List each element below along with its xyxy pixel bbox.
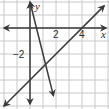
coordinate-graph: y x 2 4 −2 — [0, 0, 109, 109]
x-axis-label: x — [100, 28, 106, 40]
tick-label-y-neg2: −2 — [13, 49, 25, 60]
y-axis-label: y — [34, 0, 40, 12]
tick-label-x-4: 4 — [79, 29, 85, 40]
steep-falling-line — [30, 2, 53, 96]
tick-label-x-2: 2 — [53, 29, 59, 40]
